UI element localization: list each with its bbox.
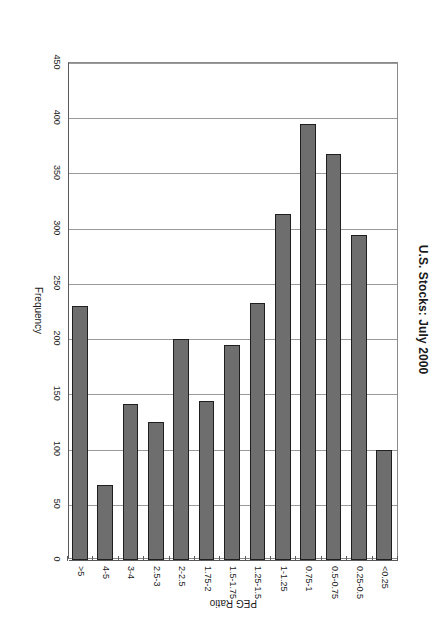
category-tick-label: 0.25-0.5 bbox=[355, 566, 365, 599]
value-tick-label: 100 bbox=[52, 441, 62, 456]
category-tick-label: 1.75-2 bbox=[203, 566, 213, 592]
bar[interactable] bbox=[376, 450, 392, 560]
bar[interactable] bbox=[72, 306, 88, 560]
bar[interactable] bbox=[97, 485, 113, 560]
category-tick-mark bbox=[67, 556, 68, 561]
category-tick-label: 1.25-1.5 bbox=[253, 566, 263, 599]
bar-row bbox=[250, 63, 266, 558]
category-tick-mark bbox=[194, 556, 195, 561]
value-tick-label: 0 bbox=[52, 556, 62, 561]
category-tick-label: 1.5-1.75 bbox=[228, 566, 238, 599]
value-tick-label: 300 bbox=[52, 220, 62, 235]
bar[interactable] bbox=[148, 422, 164, 560]
chart-figure: U.S. Stocks: July 2000 05010015020025030… bbox=[0, 0, 444, 619]
category-tick-mark bbox=[321, 556, 322, 561]
bar[interactable] bbox=[123, 404, 139, 560]
category-tick-label: >5 bbox=[76, 566, 86, 576]
bar[interactable] bbox=[199, 401, 215, 560]
category-tick-label: 3-4 bbox=[126, 566, 136, 579]
category-tick-label: <0.25 bbox=[380, 566, 390, 589]
category-tick-mark bbox=[118, 556, 119, 561]
bar-row bbox=[300, 63, 316, 558]
bar-row bbox=[123, 63, 139, 558]
bar-row bbox=[173, 63, 189, 558]
category-tick-mark bbox=[92, 556, 93, 561]
value-tick-label: 250 bbox=[52, 275, 62, 290]
value-tick-label: 350 bbox=[52, 165, 62, 180]
category-axis-title: PEG Ratio bbox=[68, 598, 398, 609]
bar[interactable] bbox=[224, 345, 240, 560]
category-tick-mark bbox=[397, 556, 398, 561]
bar-row bbox=[97, 63, 113, 558]
bar[interactable] bbox=[326, 154, 342, 560]
category-tick-mark bbox=[143, 556, 144, 561]
category-tick-label: 1-1.25 bbox=[279, 566, 289, 592]
bar-row bbox=[351, 63, 367, 558]
category-tick-mark bbox=[169, 556, 170, 561]
category-tick-label: 2.5-3 bbox=[152, 566, 162, 587]
bar-row bbox=[275, 63, 291, 558]
bar[interactable] bbox=[250, 303, 266, 560]
category-tick-mark bbox=[346, 556, 347, 561]
category-tick-label: 4-5 bbox=[101, 566, 111, 579]
category-tick-mark bbox=[372, 556, 373, 561]
value-axis-title: Frequency bbox=[33, 62, 44, 559]
value-tick-label: 400 bbox=[52, 110, 62, 125]
bar-row bbox=[376, 63, 392, 558]
category-tick-mark bbox=[295, 556, 296, 561]
bar-row bbox=[224, 63, 240, 558]
chart-title: U.S. Stocks: July 2000 bbox=[416, 0, 430, 619]
category-tick-label: 2-2.5 bbox=[177, 566, 187, 587]
bar[interactable] bbox=[173, 339, 189, 560]
bar[interactable] bbox=[300, 124, 316, 560]
bars-layer bbox=[69, 63, 397, 558]
category-tick-mark bbox=[270, 556, 271, 561]
bar-row bbox=[326, 63, 342, 558]
bar[interactable] bbox=[275, 214, 291, 560]
bar[interactable] bbox=[351, 235, 367, 560]
category-tick-mark bbox=[245, 556, 246, 561]
category-tick-label: 0.5-0.75 bbox=[330, 566, 340, 599]
value-tick-label: 150 bbox=[52, 386, 62, 401]
bar-row bbox=[148, 63, 164, 558]
bar-row bbox=[72, 63, 88, 558]
value-tick-label: 50 bbox=[52, 499, 62, 509]
value-tick-label: 450 bbox=[52, 54, 62, 69]
value-tick-label: 200 bbox=[52, 331, 62, 346]
plot-area bbox=[68, 62, 398, 559]
category-tick-mark bbox=[219, 556, 220, 561]
category-tick-label: 0.75-1 bbox=[304, 566, 314, 592]
bar-row bbox=[199, 63, 215, 558]
